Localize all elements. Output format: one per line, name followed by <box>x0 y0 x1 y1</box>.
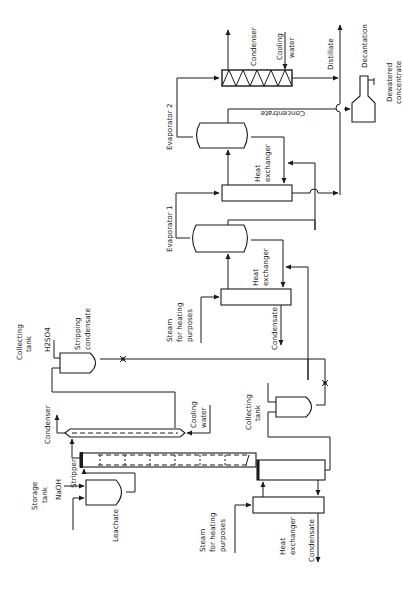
heat-exchanger-3-label-2: exchanger <box>263 144 272 182</box>
stripping-condensate-label: Stripping <box>73 317 82 350</box>
heat-exchanger-1-label-2: exchanger <box>288 517 297 555</box>
stripping-condensate-label-2: condensate <box>83 308 92 350</box>
distillate-label: Distillate <box>326 38 335 70</box>
collecting-tank-1 <box>60 353 96 373</box>
storage-tank-label: Storage <box>30 481 39 510</box>
stripper-column <box>80 452 256 468</box>
collecting-tank-2-label: Collecting <box>244 394 253 430</box>
cooling-water-2-label-2: water <box>287 37 296 58</box>
heat-exchanger-1 <box>253 497 324 513</box>
condenser-2-label: Condenser <box>249 27 258 66</box>
stripper-label: Stripper <box>69 459 78 488</box>
evaporator-2-label: Evaporator 2 <box>165 103 174 150</box>
heat-exchanger-2-label-2: exchanger <box>261 248 270 286</box>
heat-exchanger-2 <box>221 289 291 305</box>
steam-2-label-3: purposes <box>185 309 194 342</box>
collecting-tank-2-label-2: tank <box>253 404 262 421</box>
storage-tank-label-2: tank <box>40 486 49 503</box>
cooling-water-1-label: Cooling <box>189 401 198 428</box>
collecting-tank-1-label-2: tank <box>24 335 33 352</box>
condenser-1-label: Condenser <box>43 405 52 444</box>
condensate-1-label: Condensate <box>307 519 316 562</box>
cooling-water-2-label: Cooling <box>275 33 284 60</box>
distillate-line <box>336 25 340 195</box>
concentrate-label: Concentrate <box>260 109 305 118</box>
h2so4-label: H2SO4 <box>43 327 52 352</box>
collecting-tank-1-label: Collecting <box>15 324 24 360</box>
evaporator-1-label: Evaporator 1 <box>165 205 174 252</box>
heat-exchanger-2-label: Heat <box>251 269 260 286</box>
heat-exchanger-1-label: Heat <box>278 538 287 555</box>
steam-2-label-2: for heating <box>175 303 184 342</box>
naoh-label: NaOH <box>54 479 63 500</box>
steam-2-label: Steam <box>165 319 174 342</box>
heat-exchanger-3-label: Heat <box>253 165 262 182</box>
decantation-vessel <box>352 76 375 122</box>
steam-1-label: Steam <box>198 529 207 552</box>
dewatered-concentrate-label-2: concentrate <box>394 60 403 104</box>
heat-exchanger-3 <box>222 185 292 201</box>
decantation-label: Decantation <box>360 24 369 68</box>
condenser-1 <box>65 429 185 437</box>
dewatered-concentrate-label: Dewatered <box>385 63 394 102</box>
leachate-label: Leachate <box>111 509 120 542</box>
steam-1-label-2: for heating <box>208 513 217 552</box>
cooling-water-1-label-2: water <box>199 407 208 428</box>
collecting-tank-2 <box>276 397 312 417</box>
steam-1-label-3: purposes <box>218 519 227 552</box>
evaporator-2 <box>197 123 248 148</box>
storage-tank <box>86 480 122 505</box>
condensate-2-label: Condensate <box>270 307 279 350</box>
process-flow-diagram: Condenser Cooling water Distillate Decan… <box>0 0 403 609</box>
evaporator-1 <box>193 225 248 252</box>
stripper-sump <box>257 460 325 480</box>
